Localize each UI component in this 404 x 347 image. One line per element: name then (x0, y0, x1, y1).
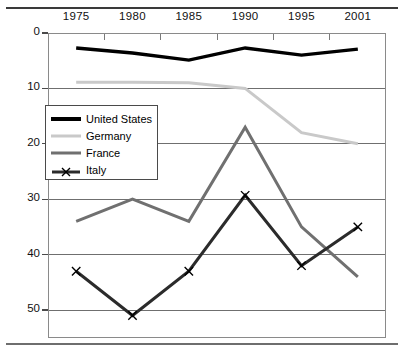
legend-swatch-italy (51, 164, 81, 176)
legend-item: United States (51, 110, 157, 127)
chart-root: 197519801985199019952001 United States G… (0, 0, 404, 347)
data-point-marker (185, 267, 193, 275)
data-point-marker (128, 311, 136, 319)
legend-swatch-france (51, 147, 81, 159)
legend-label-united-states: United States (86, 113, 152, 125)
data-point-marker (354, 223, 362, 231)
y-tick-label: 40 (14, 247, 40, 259)
legend-italy-marker-icon (51, 166, 81, 178)
plot-border (49, 34, 386, 338)
legend-item: France (51, 144, 157, 161)
legend-item: Italy (51, 161, 157, 178)
data-point-marker (72, 267, 80, 275)
legend-label-france: France (86, 147, 120, 159)
legend-label-germany: Germany (86, 130, 131, 142)
series-line-italy (76, 195, 358, 315)
y-tick-label: 30 (14, 191, 40, 203)
legend-label-italy: Italy (86, 164, 106, 176)
data-point-marker (297, 261, 305, 269)
legend-swatch-united-states (51, 113, 81, 125)
series-line-united-states (76, 48, 358, 60)
y-tick-label: 20 (14, 136, 40, 148)
y-tick-label: 0 (14, 25, 40, 37)
legend-swatch-germany (51, 130, 81, 142)
chart-legend: United States Germany France Italy (45, 105, 158, 180)
legend-item: Germany (51, 127, 157, 144)
data-point-marker (241, 191, 249, 199)
bottom-divider-rule (6, 343, 398, 345)
y-tick-label: 50 (14, 302, 40, 314)
y-tick-label: 10 (14, 80, 40, 92)
